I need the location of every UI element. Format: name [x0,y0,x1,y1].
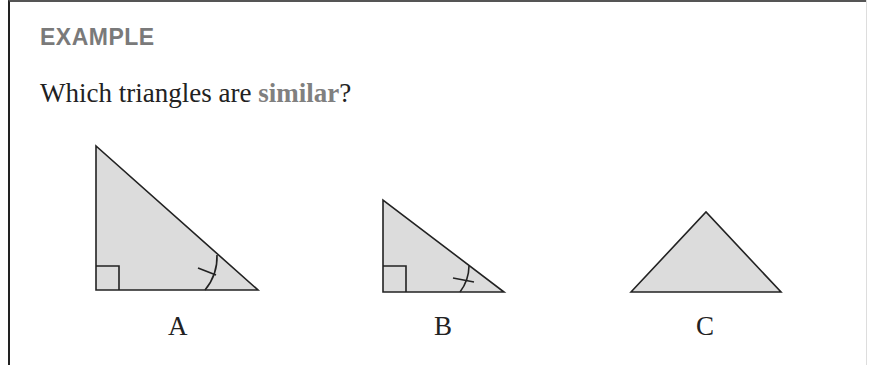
triangle-a [96,146,258,290]
triangle-b [383,200,504,292]
triangle-b-label: B [434,311,452,342]
triangle-c-label: C [696,311,714,342]
triangle-c [631,212,781,292]
triangle-a-label: A [168,311,188,342]
